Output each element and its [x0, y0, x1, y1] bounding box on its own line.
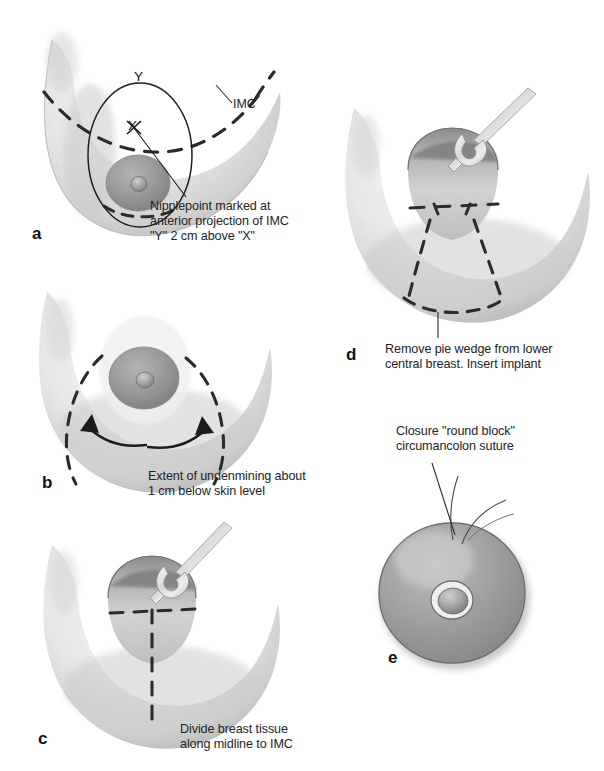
panel-caption-c: Divide breast tissue along midline to IM…	[180, 722, 380, 752]
upper-shadow-c	[50, 551, 78, 615]
point-y-label: Y	[134, 69, 143, 84]
panel-b-illustration	[39, 292, 272, 493]
panel-caption-a: Nipplepoint marked at anterior projectio…	[150, 199, 370, 245]
panel-letter-d: d	[346, 345, 356, 365]
panel-d-illustration	[345, 88, 590, 338]
imc-label: IMC	[233, 97, 256, 111]
imc-dashed-line-a-right	[256, 72, 274, 98]
panel-e-illustration	[379, 463, 530, 670]
point-x-label: X	[128, 118, 137, 133]
panel-letter-a: a	[32, 224, 41, 244]
panel-c-illustration	[43, 522, 280, 749]
panel-letter-e: e	[388, 648, 397, 668]
figure-illustration	[0, 0, 604, 771]
nipple-a	[131, 177, 147, 192]
upper-shadow-a	[46, 32, 78, 92]
imc-leader-a	[216, 85, 232, 103]
disc-highlight-e	[394, 532, 474, 588]
panel-letter-b: b	[42, 473, 52, 493]
upper-shadow-d	[352, 114, 380, 178]
panel-caption-e: Closure "round block" circumancolon sutu…	[396, 424, 596, 454]
nipple-b	[136, 372, 154, 388]
panel-caption-b: Extent of undenmining about 1 cm below s…	[148, 469, 363, 499]
upper-shadow-b	[46, 298, 74, 362]
panel-letter-c: c	[38, 729, 47, 749]
nipple-e	[438, 588, 468, 614]
surgical-figure: Y X IMC a Nipplepoint marked at anterior…	[0, 0, 604, 771]
breast-shadow-a	[64, 84, 116, 216]
panel-caption-d: Remove pie wedge from lower central brea…	[385, 342, 600, 372]
